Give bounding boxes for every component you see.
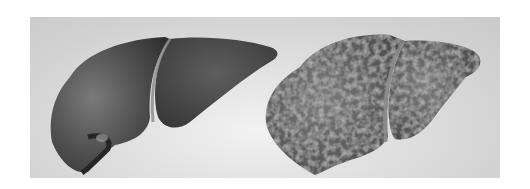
image-frame [30, 17, 500, 178]
healthy-liver-illustration [30, 17, 500, 178]
cirrhotic-liver-left-lobe [388, 41, 480, 140]
healthy-liver-left-lobe [155, 37, 277, 127]
